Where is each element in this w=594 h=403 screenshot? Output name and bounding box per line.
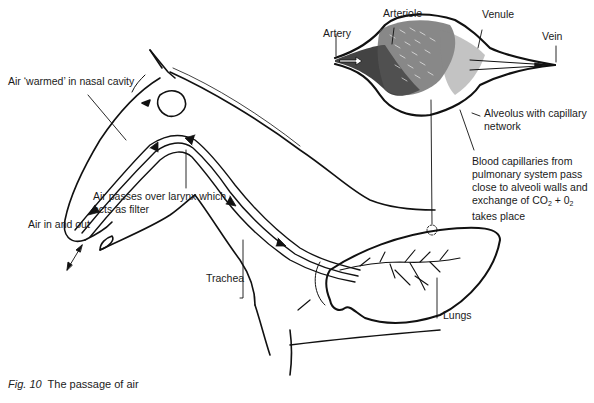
label-vein: Vein (542, 30, 562, 43)
label-blood-line1: Blood capillaries from (472, 155, 572, 167)
label-larynx-line1: Air passes over larynx which (93, 190, 226, 202)
label-venule: Venule (482, 8, 514, 21)
co2-text: exchange of CO (472, 194, 548, 206)
figure-number: Fig. 10 (8, 378, 42, 390)
label-larynx: Air passes over larynx which acts as fil… (93, 190, 226, 216)
label-arteriole: Arteriole (383, 7, 422, 20)
figure-caption: Fig. 10 The passage of air (8, 378, 139, 390)
label-blood-line5: takes place (472, 210, 525, 222)
label-alveolus-line1: Alveolus with capillary (484, 107, 587, 119)
label-alveolus: Alveolus with capillary network (484, 107, 587, 133)
o2-text: + 0 (552, 194, 570, 206)
label-larynx-line2: acts as filter (93, 203, 149, 215)
label-blood-line3: close to alveoli walls and (472, 181, 588, 193)
label-artery: Artery (323, 27, 351, 40)
label-nasal-cavity: Air ‘warmed’ in nasal cavity (8, 75, 134, 88)
label-alveolus-line2: network (484, 120, 521, 132)
label-blood-line2: pulmonary system pass (472, 168, 582, 180)
label-blood-capillaries: Blood capillaries from pulmonary system … (472, 155, 588, 223)
label-air-in-out: Air in and out (28, 218, 90, 231)
figure-title: The passage of air (48, 378, 139, 390)
label-blood-line4: exchange of CO2 + 02 (472, 194, 574, 206)
label-trachea: Trachea (206, 272, 244, 285)
o2-subscript: 2 (570, 200, 574, 207)
label-lungs: Lungs (443, 309, 472, 322)
